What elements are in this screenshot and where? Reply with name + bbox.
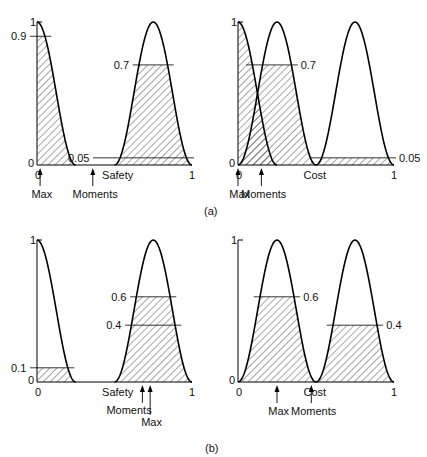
y-tick-1: 1: [30, 234, 36, 246]
marker-label-moments: Moments: [291, 405, 337, 417]
panel-a-safety: 1001Safety0.90.70.05MaxMoments: [11, 16, 195, 200]
arrow-head-icon: [275, 385, 280, 392]
panel-b-cost: 1001Cost0.60.4MaxMoments: [229, 234, 402, 417]
y-tick-1: 1: [30, 16, 36, 28]
level-label-0.1: 0.1: [11, 362, 26, 374]
y-tick-0: 0: [28, 157, 34, 169]
level-label-0.4: 0.4: [386, 319, 401, 331]
y-tick-0: 0: [229, 157, 235, 169]
arrow-head-icon: [259, 168, 264, 175]
fuzzy-membership-figure: 1001Safety0.90.70.05MaxMoments 1001Cost0…: [0, 0, 427, 457]
level-label-0.9: 0.9: [11, 30, 26, 42]
marker-label-max: Max: [141, 416, 162, 428]
level-label-0.4: 0.4: [106, 319, 121, 331]
membership-curve-high: [316, 22, 394, 165]
marker-label-max: Max: [31, 188, 52, 200]
marker-label-max: Max: [268, 405, 289, 417]
x-axis-label: Safety: [102, 386, 134, 398]
x-axis-label: Cost: [304, 169, 327, 181]
x-tick-1: 1: [189, 386, 195, 398]
x-tick-1: 1: [391, 169, 397, 181]
x-axis-label: Safety: [102, 169, 134, 181]
x-tick-0: 0: [236, 386, 242, 398]
arrow-head-icon: [140, 385, 145, 392]
shaded-area-high: [115, 297, 193, 382]
caption-a: (a): [204, 205, 217, 217]
level-label-0.6: 0.6: [303, 291, 318, 303]
membership-curve-low: [37, 240, 76, 382]
shaded-area-high: [316, 158, 394, 165]
level-label-0.7: 0.7: [301, 59, 316, 71]
y-tick-0: 0: [28, 374, 34, 386]
marker-label-moments: Moments: [73, 188, 119, 200]
level-label-0.05: 0.05: [68, 152, 89, 164]
y-tick-0: 0: [229, 374, 235, 386]
x-tick-1: 1: [189, 169, 195, 181]
caption-b: (b): [205, 442, 218, 454]
x-axis-label: Cost: [304, 386, 327, 398]
level-label-0.05: 0.05: [399, 152, 420, 164]
y-tick-1: 1: [231, 16, 237, 28]
marker-label-moments: Moments: [241, 188, 287, 200]
shaded-area-low: [37, 36, 76, 165]
y-tick-1: 1: [231, 234, 237, 246]
level-label-0.6: 0.6: [111, 291, 126, 303]
x-tick-0: 0: [35, 386, 41, 398]
panel-a-cost: 1001Cost0.70.05MaxMoments: [229, 16, 420, 200]
panel-b-safety: 1001Safety0.60.40.1MomentsMax: [11, 234, 195, 428]
marker-label-moments: Moments: [106, 404, 152, 416]
level-label-0.7: 0.7: [114, 59, 129, 71]
arrow-head-icon: [90, 168, 95, 175]
arrow-head-icon: [148, 385, 153, 392]
shaded-area-high: [115, 65, 193, 165]
shaded-area-medium: [238, 297, 316, 382]
x-tick-1: 1: [391, 386, 397, 398]
